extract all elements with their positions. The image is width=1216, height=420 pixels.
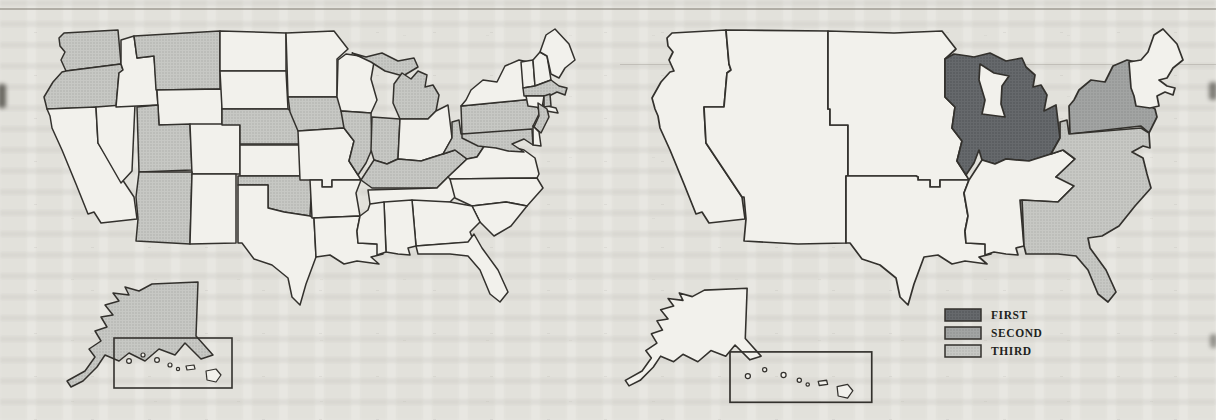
hawaii-island <box>797 378 801 382</box>
state-in <box>371 117 400 164</box>
legend-row-third: THIRD <box>944 344 1043 358</box>
legend-row-second: SECOND <box>944 326 1043 340</box>
hawaii-island <box>818 380 827 385</box>
legend-swatch-first <box>944 308 982 322</box>
region-west-north-central <box>828 31 969 187</box>
region-new-england <box>1129 29 1183 108</box>
us-divisions-map <box>608 0 1216 420</box>
state-ak <box>67 282 213 387</box>
hawaii-island <box>155 358 160 363</box>
hawaii-island <box>127 359 132 364</box>
legend-label-third: THIRD <box>991 345 1032 358</box>
state-az <box>136 172 192 244</box>
state-nm <box>190 174 236 244</box>
state-sc <box>472 202 527 236</box>
legend-swatch-third <box>944 344 982 358</box>
state-co <box>190 124 240 174</box>
state-al <box>384 200 416 255</box>
legend-row-first: FIRST <box>944 308 1043 322</box>
hawaii-island <box>176 367 179 370</box>
scanned-page: FIRST SECOND THIRD <box>0 0 1216 420</box>
hawaii-island <box>837 384 853 398</box>
hawaii-island <box>763 368 767 372</box>
state-ar <box>310 180 361 218</box>
us-states-map <box>0 0 608 420</box>
state-mi-lower <box>393 71 439 119</box>
hawaii-island <box>806 383 809 386</box>
state-ri <box>544 94 551 107</box>
region-alaska <box>625 288 761 386</box>
hawaii-island <box>186 365 195 370</box>
hawaii-island <box>168 363 172 367</box>
legend: FIRST SECOND THIRD <box>944 308 1043 358</box>
legend-swatch-second <box>944 326 982 340</box>
state-sd <box>220 71 288 109</box>
state-or <box>44 64 123 109</box>
legend-label-second: SECOND <box>991 327 1043 340</box>
state-fl <box>416 234 508 302</box>
hawaii-island <box>745 374 750 379</box>
state-nd <box>220 31 286 71</box>
hawaii-island <box>206 369 221 382</box>
state-nc <box>450 178 543 206</box>
state-wy <box>157 89 222 125</box>
hawaii-island <box>781 372 786 377</box>
legend-label-first: FIRST <box>991 309 1028 322</box>
hawaii-island <box>141 353 145 357</box>
